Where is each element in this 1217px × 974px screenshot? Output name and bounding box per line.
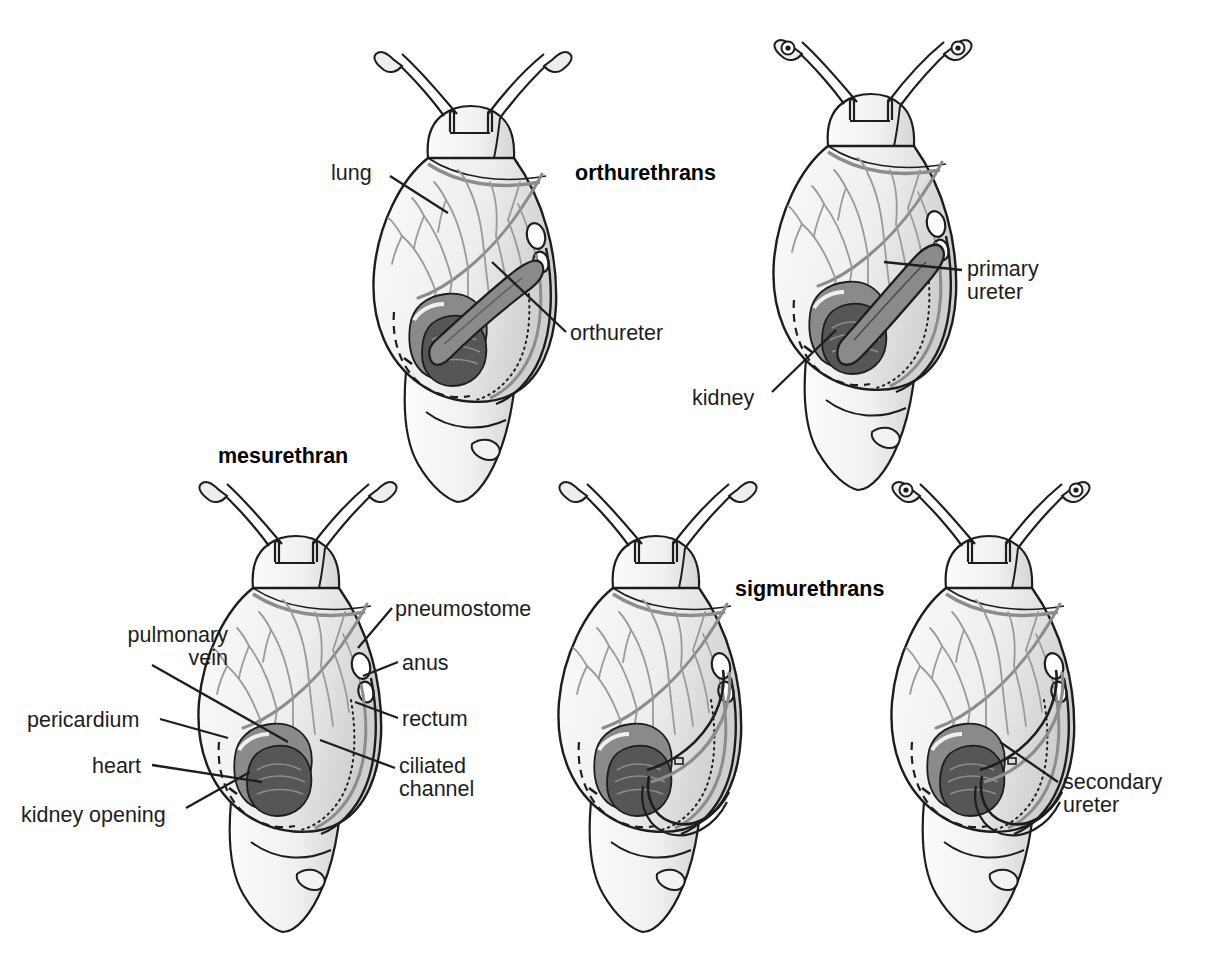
orthurethran-snail[interactable] bbox=[373, 52, 571, 502]
heading-sigmurethrans: sigmurethrans bbox=[735, 577, 884, 602]
heading-orthurethrans: orthurethrans bbox=[575, 161, 716, 186]
heading-mesurethran: mesurethran bbox=[218, 444, 348, 469]
label-heart: heart bbox=[92, 755, 141, 778]
label-pericardium: pericardium bbox=[27, 709, 139, 732]
label-kidney: kidney bbox=[692, 387, 754, 410]
orthurethran-snail-2[interactable] bbox=[773, 40, 971, 490]
label-kidney-opening: kidney opening bbox=[21, 804, 166, 827]
snail-anatomy-diagram bbox=[0, 0, 1217, 974]
label-rectum: rectum bbox=[402, 708, 468, 731]
eye-spot-left-icon bbox=[900, 484, 913, 497]
label-ciliated-channel: ciliated channel bbox=[399, 755, 474, 801]
sigmurethran-snail-1[interactable] bbox=[558, 482, 756, 932]
sigmurethran-snail-2[interactable] bbox=[891, 482, 1089, 932]
figure-canvas: orthurethrans mesurethran sigmurethrans … bbox=[0, 0, 1217, 974]
label-secondary-ureter: secondary ureter bbox=[1063, 771, 1162, 817]
label-pneumostome: pneumostome bbox=[395, 598, 531, 621]
eye-spot-left-icon bbox=[782, 42, 795, 55]
label-lung: lung bbox=[331, 162, 372, 185]
label-anus: anus bbox=[402, 652, 449, 675]
label-primary-ureter: primary ureter bbox=[967, 258, 1039, 304]
eye-spot-right-icon bbox=[1070, 484, 1083, 497]
label-pulmonary-vein: pulmonary vein bbox=[56, 624, 228, 670]
eye-spot-right-icon bbox=[952, 42, 965, 55]
label-orthureter: orthureter bbox=[570, 322, 663, 345]
